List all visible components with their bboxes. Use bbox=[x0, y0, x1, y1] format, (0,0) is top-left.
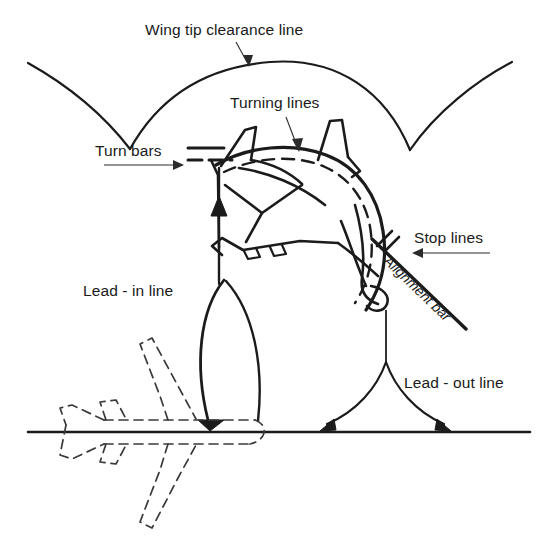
lead-in-direction-arrowhead bbox=[211, 196, 227, 216]
turn-bars-leader-arrowhead bbox=[173, 160, 184, 170]
label-turning-lines: Turning lines bbox=[230, 94, 320, 111]
label-lead-in-line: Lead - in line bbox=[83, 282, 173, 299]
lead-in-terminal-arrowhead bbox=[198, 420, 224, 431]
diagram-canvas: Wing tip clearance line Turning lines Tu… bbox=[0, 0, 549, 547]
lead-out-line bbox=[320, 310, 451, 431]
label-lead-out-line: Lead - out line bbox=[404, 374, 504, 391]
annotation-leaders bbox=[104, 42, 490, 258]
lead-in-line bbox=[198, 168, 260, 431]
lead-out-right-arrowhead bbox=[435, 419, 451, 431]
aircraft-stand-markings-diagram: Wing tip clearance line Turning lines Tu… bbox=[0, 0, 549, 547]
label-alignment-bar: Alignment bar bbox=[380, 252, 455, 325]
lead-out-left-arrowhead bbox=[320, 419, 336, 431]
label-wing-tip-clearance-line: Wing tip clearance line bbox=[145, 21, 303, 38]
label-stop-lines: Stop lines bbox=[414, 229, 483, 246]
label-turn-bars: Turn bars bbox=[95, 142, 162, 159]
stop-lines-leader-arrowhead bbox=[412, 248, 423, 258]
